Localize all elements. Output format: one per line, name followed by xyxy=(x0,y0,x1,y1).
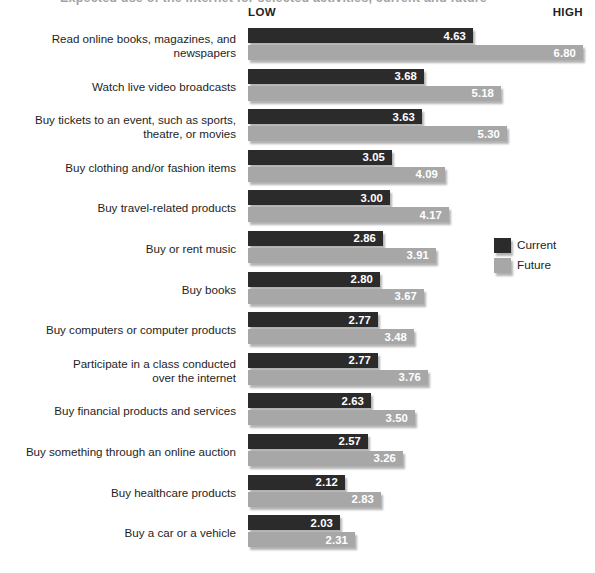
bar-future: 4.17 xyxy=(248,207,449,222)
bar-future: 3.50 xyxy=(248,410,415,425)
bar-group: 2.573.26 xyxy=(248,432,595,473)
bar-future: 3.48 xyxy=(248,329,414,344)
chart-row: Participate in a class conductedover the… xyxy=(0,351,595,392)
bar-value-label: 2.63 xyxy=(342,395,371,407)
bar-value-label: 2.03 xyxy=(311,517,340,529)
chart-row: Buy healthcare products2.122.83 xyxy=(0,473,595,514)
category-label-line: Buy healthcare products xyxy=(111,486,236,501)
bar-group: 2.633.50 xyxy=(248,391,595,432)
bar-value-label: 3.48 xyxy=(385,331,414,343)
category-label: Buy or rent music xyxy=(0,229,242,270)
bar-future: 5.30 xyxy=(248,126,507,141)
bar-group: 2.773.48 xyxy=(248,310,595,351)
bar-group: 4.636.80 xyxy=(248,26,595,67)
category-label-line: over the internet xyxy=(152,371,236,386)
bar-future: 3.67 xyxy=(248,289,424,304)
bar-value-label: 4.09 xyxy=(416,168,445,180)
category-label: Watch live video broadcasts xyxy=(0,67,242,108)
bar-future: 3.26 xyxy=(248,451,403,466)
bar-future: 3.91 xyxy=(248,248,436,263)
bar-value-label: 3.26 xyxy=(374,452,403,464)
bar-group: 3.635.30 xyxy=(248,107,595,148)
category-label-line: theatre, or movies xyxy=(143,127,236,142)
bar-value-label: 2.86 xyxy=(354,232,383,244)
bar-current: 2.77 xyxy=(248,353,378,368)
category-label: Buy healthcare products xyxy=(0,473,242,514)
bar-value-label: 2.77 xyxy=(349,354,378,366)
bar-value-label: 2.83 xyxy=(352,493,381,505)
bar-value-label: 2.80 xyxy=(351,273,380,285)
bar-current: 2.57 xyxy=(248,434,368,449)
bar-current: 2.77 xyxy=(248,312,378,327)
category-label: Buy a car or a vehicle xyxy=(0,513,242,554)
bar-value-label: 5.18 xyxy=(472,87,501,99)
category-label: Buy books xyxy=(0,270,242,311)
bar-current: 2.86 xyxy=(248,231,383,246)
legend-label-current: Current xyxy=(517,238,556,252)
category-label: Buy computers or computer products xyxy=(0,310,242,351)
bar-current: 2.12 xyxy=(248,475,345,490)
category-label-line: Buy financial products and services xyxy=(54,404,236,419)
chart-row: Buy tickets to an event, such as sports,… xyxy=(0,107,595,148)
category-label: Buy tickets to an event, such as sports,… xyxy=(0,107,242,148)
bar-value-label: 4.63 xyxy=(444,30,473,42)
bar-group: 3.004.17 xyxy=(248,188,595,229)
bar-chart: Read online books, magazines, andnewspap… xyxy=(0,26,595,566)
bar-value-label: 3.00 xyxy=(361,192,390,204)
chart-legend: Current Future xyxy=(494,236,589,276)
bar-value-label: 3.63 xyxy=(393,111,422,123)
bar-value-label: 3.76 xyxy=(399,371,428,383)
chart-row: Read online books, magazines, andnewspap… xyxy=(0,26,595,67)
legend-label-future: Future xyxy=(517,258,551,272)
chart-row: Buy travel-related products3.004.17 xyxy=(0,188,595,229)
chart-row: Buy a car or a vehicle2.032.31 xyxy=(0,513,595,554)
bar-value-label: 5.30 xyxy=(478,128,507,140)
bar-current: 3.63 xyxy=(248,109,422,124)
chart-row: Buy something through an online auction2… xyxy=(0,432,595,473)
category-label: Buy something through an online auction xyxy=(0,432,242,473)
bar-group: 2.773.76 xyxy=(248,351,595,392)
category-label-line: Buy clothing and/or fashion items xyxy=(65,161,236,176)
bar-future: 3.76 xyxy=(248,370,428,385)
bar-group: 2.122.83 xyxy=(248,473,595,514)
category-label-line: Buy or rent music xyxy=(146,242,236,257)
category-label-line: Buy something through an online auction xyxy=(26,445,236,460)
chart-row: Buy computers or computer products2.773.… xyxy=(0,310,595,351)
axis-header: LOW HIGH xyxy=(0,6,595,26)
bar-value-label: 2.77 xyxy=(349,314,378,326)
bar-value-label: 2.57 xyxy=(339,435,368,447)
bar-current: 3.68 xyxy=(248,69,424,84)
category-label-line: Read online books, magazines, and xyxy=(52,32,236,47)
axis-low-label: LOW xyxy=(248,6,276,18)
bar-future: 4.09 xyxy=(248,167,445,182)
chart-title: Expected use of the internet for selecte… xyxy=(60,0,487,5)
bar-current: 2.63 xyxy=(248,393,371,408)
category-label: Participate in a class conductedover the… xyxy=(0,351,242,392)
bar-group: 3.685.18 xyxy=(248,67,595,108)
legend-item-future: Future xyxy=(494,256,589,274)
category-label-line: Buy books xyxy=(182,283,236,298)
category-label-line: Buy computers or computer products xyxy=(46,323,236,338)
legend-item-current: Current xyxy=(494,236,589,254)
bar-future: 2.83 xyxy=(248,492,381,507)
bar-current: 2.80 xyxy=(248,272,380,287)
bar-current: 4.63 xyxy=(248,28,473,43)
category-label-line: Buy a car or a vehicle xyxy=(125,526,236,541)
bar-future: 2.31 xyxy=(248,532,355,547)
bar-value-label: 3.68 xyxy=(395,70,424,82)
category-label-line: Buy travel-related products xyxy=(97,201,236,216)
bar-current: 3.00 xyxy=(248,190,390,205)
category-label: Read online books, magazines, andnewspap… xyxy=(0,26,242,67)
bar-value-label: 3.50 xyxy=(386,412,415,424)
bar-value-label: 6.80 xyxy=(554,47,583,59)
bar-group: 2.032.31 xyxy=(248,513,595,554)
category-label: Buy clothing and/or fashion items xyxy=(0,148,242,189)
chart-row: Buy financial products and services2.633… xyxy=(0,391,595,432)
chart-row: Watch live video broadcasts3.685.18 xyxy=(0,67,595,108)
bar-group: 3.054.09 xyxy=(248,148,595,189)
bar-value-label: 2.12 xyxy=(316,476,345,488)
bar-value-label: 2.31 xyxy=(326,534,355,546)
category-label: Buy financial products and services xyxy=(0,391,242,432)
category-label-line: Watch live video broadcasts xyxy=(92,80,236,95)
bar-value-label: 3.05 xyxy=(363,151,392,163)
